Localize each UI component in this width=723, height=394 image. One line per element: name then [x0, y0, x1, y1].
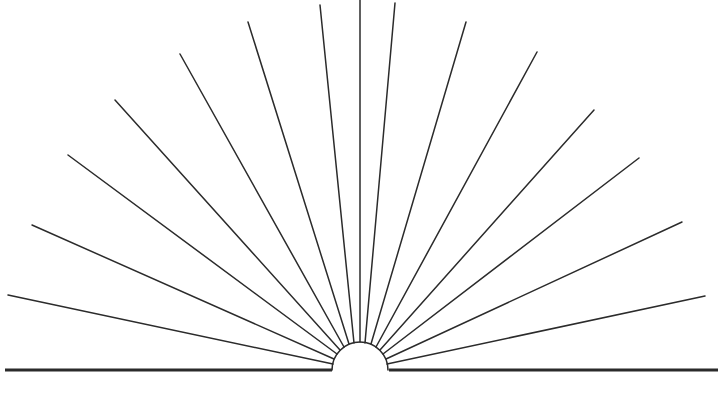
background-rect: [0, 0, 723, 394]
figure-canvas: [0, 0, 723, 394]
sunburst-fan-diagram: [0, 0, 723, 394]
